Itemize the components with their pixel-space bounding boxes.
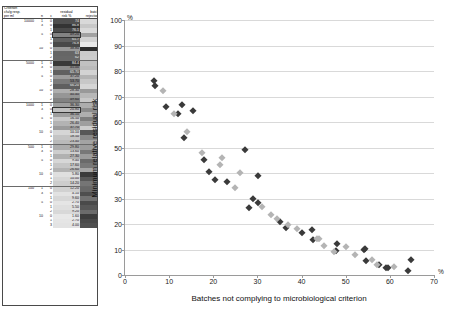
data-point-light — [232, 184, 240, 192]
x-tick-label: 40 — [298, 278, 306, 285]
gridline-horizontal — [125, 97, 434, 98]
y-tick-label: 40 — [114, 170, 122, 177]
data-point-light — [159, 88, 167, 96]
y-tick-label: 60 — [114, 119, 122, 126]
gridline-horizontal — [125, 173, 434, 174]
criteria-table: Criterioncfu/g resp.per mlncresidualrisk… — [3, 7, 98, 228]
data-point-dark — [205, 168, 213, 176]
y-tick-label: 100 — [110, 17, 122, 24]
scatter-chart: % % Minimum relative residual risk Batch… — [100, 6, 452, 306]
x-tick-label: 10 — [165, 278, 173, 285]
cell-residual-risk: 4.00 — [53, 223, 80, 228]
data-point-dark — [404, 267, 412, 275]
y-tick-label: 0 — [118, 272, 122, 279]
y-tick-label: 10 — [114, 246, 122, 253]
data-point-light — [216, 162, 224, 170]
x-tick-label: 50 — [342, 278, 350, 285]
data-point-light — [236, 169, 244, 177]
x-axis-title: Batches not complying to microbiological… — [124, 294, 434, 303]
table-row: 34.0057.20 — [3, 223, 98, 228]
data-point-light — [285, 221, 293, 229]
y-tick-mark — [122, 122, 125, 123]
plot-area: 0102030405060708090100010203040506070 — [124, 20, 434, 276]
x-axis-unit: % — [438, 268, 444, 275]
gridline-horizontal — [125, 199, 434, 200]
y-tick-mark — [122, 148, 125, 149]
y-tick-label: 30 — [114, 195, 122, 202]
data-point-dark — [211, 176, 219, 184]
y-axis-title: Minimum relative residual risk — [90, 99, 99, 198]
x-tick-label: 70 — [430, 278, 438, 285]
figure-root: Criterioncfu/g resp.per mlncresidualrisk… — [0, 0, 455, 312]
y-tick-mark — [122, 199, 125, 200]
header-batch-rejection: batchrejection % — [80, 7, 98, 19]
table-header-row: Criterioncfu/g resp.per mlncresidualrisk… — [3, 7, 98, 19]
y-tick-label: 90 — [114, 42, 122, 49]
gridline-horizontal — [125, 20, 434, 21]
y-tick-mark — [122, 71, 125, 72]
data-point-dark — [245, 204, 253, 212]
gridline-horizontal — [125, 250, 434, 251]
data-point-dark — [308, 226, 316, 234]
gridline-horizontal — [125, 46, 434, 47]
x-tick-label: 20 — [209, 278, 217, 285]
x-tick-label: 30 — [254, 278, 262, 285]
y-tick-mark — [122, 173, 125, 174]
header-n: n — [35, 7, 44, 19]
y-tick-mark — [122, 250, 125, 251]
data-point-light — [351, 251, 359, 259]
data-point-dark — [162, 104, 170, 112]
y-tick-mark — [122, 224, 125, 225]
x-tick-label: 0 — [123, 278, 127, 285]
cell-criterion — [3, 223, 35, 228]
header-residual-risk: residualrisk % — [53, 7, 80, 19]
y-tick-label: 80 — [114, 68, 122, 75]
y-tick-mark — [122, 20, 125, 21]
data-point-dark — [407, 256, 415, 264]
x-tick-label: 60 — [386, 278, 394, 285]
y-tick-label: 50 — [114, 144, 122, 151]
header-c: c — [44, 7, 53, 19]
header-criterion: Criterioncfu/g resp.per ml — [3, 7, 35, 19]
data-point-dark — [189, 107, 197, 115]
data-point-dark — [334, 240, 342, 248]
gridline-horizontal — [125, 148, 434, 149]
data-point-light — [258, 203, 266, 211]
gridline-horizontal — [125, 122, 434, 123]
data-point-dark — [223, 179, 231, 187]
data-point-dark — [178, 101, 186, 109]
y-tick-mark — [122, 97, 125, 98]
cell-c: 3 — [44, 223, 53, 228]
y-tick-label: 70 — [114, 93, 122, 100]
y-tick-label: 20 — [114, 221, 122, 228]
criteria-table-panel: Criterioncfu/g resp.per mlncresidualrisk… — [2, 6, 98, 306]
gridline-horizontal — [125, 71, 434, 72]
data-point-light — [198, 149, 206, 157]
cell-n — [35, 223, 44, 228]
data-point-dark — [201, 156, 209, 164]
cell-batch-rejection: 57.20 — [80, 223, 98, 228]
y-tick-mark — [122, 46, 125, 47]
data-point-light — [320, 242, 328, 250]
data-point-light — [390, 264, 398, 272]
